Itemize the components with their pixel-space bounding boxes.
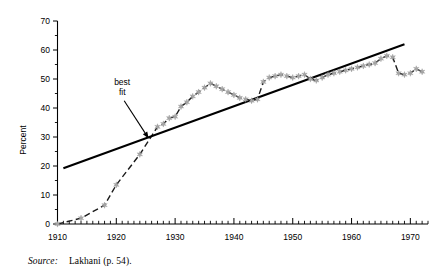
x-tick-label: 1920 xyxy=(107,232,126,242)
figure-container: 010203040506070 Percent 1910192019301940… xyxy=(0,0,448,277)
annotation-label-line2: fit xyxy=(119,87,126,97)
y-tick-label: 50 xyxy=(41,74,51,84)
data-point-marker xyxy=(414,66,419,72)
data-point-marker xyxy=(208,80,213,86)
y-tick-label: 0 xyxy=(45,219,50,229)
data-series-dashed-line xyxy=(58,56,423,224)
y-axis-group: 010203040506070 Percent xyxy=(18,16,58,229)
y-tick-label: 20 xyxy=(41,161,51,171)
source-citation: Lakhani (p. 54). xyxy=(69,256,132,266)
data-point-marker xyxy=(237,95,242,101)
data-point-marker xyxy=(419,69,424,75)
data-point-marker xyxy=(231,92,236,98)
data-point-marker xyxy=(225,89,230,95)
annotation-arrow-icon xyxy=(124,101,145,133)
data-point-marker xyxy=(214,83,219,89)
source-label: Source: xyxy=(28,256,58,266)
x-tick-label: 1910 xyxy=(48,232,67,242)
data-point-marker xyxy=(102,202,107,208)
data-point-marker xyxy=(219,86,224,92)
best-fit-annotation: best fit xyxy=(114,77,148,139)
x-tick-label: 1950 xyxy=(283,232,302,242)
data-series-markers xyxy=(55,53,425,227)
x-axis-tick-labels: 1910192019301940195019601970 xyxy=(48,232,420,242)
chart-canvas: 010203040506070 Percent 1910192019301940… xyxy=(0,0,448,277)
source-note: Source:Lakhani (p. 54). xyxy=(28,256,132,266)
y-tick-label: 10 xyxy=(41,190,51,200)
x-tick-label: 1940 xyxy=(224,232,243,242)
annotation-label-line1: best xyxy=(114,77,131,87)
x-tick-label: 1930 xyxy=(166,232,185,242)
data-point-marker xyxy=(261,79,266,85)
x-axis-group: 1910192019301940195019601970 xyxy=(48,218,428,242)
y-tick-label: 60 xyxy=(41,45,51,55)
y-axis-tick-labels: 010203040506070 xyxy=(41,16,51,229)
y-tick-label: 40 xyxy=(41,103,51,113)
best-fit-line xyxy=(63,44,404,168)
x-tick-label: 1970 xyxy=(401,232,420,242)
x-tick-label: 1960 xyxy=(342,232,361,242)
y-tick-label: 30 xyxy=(41,132,51,142)
y-tick-label: 70 xyxy=(41,16,51,26)
data-point-marker xyxy=(390,54,395,60)
y-axis-title: Percent xyxy=(18,125,28,155)
